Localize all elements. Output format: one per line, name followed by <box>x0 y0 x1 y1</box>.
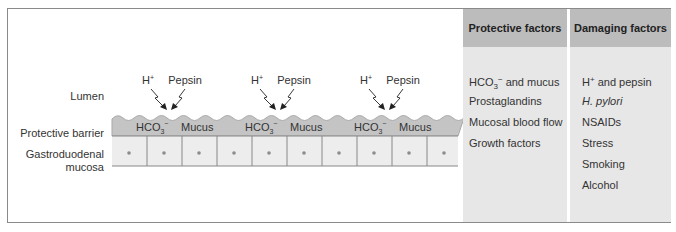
acid-label: H+ <box>142 74 154 86</box>
acid-attack-arrow <box>369 89 381 106</box>
pepsin-attack-arrow <box>175 89 185 106</box>
cell-nucleus <box>162 151 166 155</box>
damaging-factor-item: Alcohol <box>582 178 652 199</box>
acid-label: H+ <box>360 74 372 86</box>
pepsin-label: Pepsin <box>386 74 420 86</box>
cell-nucleus <box>127 151 131 155</box>
protective-factor-item: Mucosal blood flow <box>469 115 563 136</box>
cell-nucleus <box>197 151 201 155</box>
damaging-factor-item: Stress <box>582 136 652 157</box>
cell-nucleus <box>232 151 236 155</box>
damaging-factor-item: Smoking <box>582 157 652 178</box>
damaging-factor-item: NSAIDs <box>582 115 652 136</box>
cell-nucleus <box>407 151 411 155</box>
damaging-factors-list: H+ and pepsinH. pyloriNSAIDsStressSmokin… <box>582 73 652 199</box>
protective-factor-item: HCO3− and mucus <box>469 73 563 94</box>
bicarbonate-label: HCO3− <box>354 120 386 135</box>
damaging-factor-item: H. pylori <box>582 94 652 115</box>
cell-nucleus <box>372 151 376 155</box>
acid-label: H+ <box>251 74 263 86</box>
pepsin-attack-arrow <box>284 89 294 106</box>
protective-factors-column: Protective factors HCO3− and mucusProsta… <box>463 9 567 222</box>
protective-factors-header: Protective factors <box>463 9 567 47</box>
mucosal-diagram: Lumen Protective barrier Gastroduodenal … <box>8 9 464 222</box>
diagram-graphic: H+PepsinHCO3−MucusH+PepsinHCO3−MucusH+Pe… <box>8 9 464 222</box>
mucus-label: Mucus <box>399 121 432 133</box>
bicarbonate-label: HCO3− <box>136 120 168 135</box>
damaging-factors-body: H+ and pepsinH. pyloriNSAIDsStressSmokin… <box>570 49 671 222</box>
protective-factors-body: HCO3− and mucusProstaglandinsMucosal blo… <box>463 49 567 222</box>
protective-factors-list: HCO3− and mucusProstaglandinsMucosal blo… <box>469 73 563 157</box>
damaging-factor-item: H+ and pepsin <box>582 73 652 94</box>
cell-nucleus <box>442 151 446 155</box>
damaging-factors-header: Damaging factors <box>570 9 671 47</box>
pepsin-label: Pepsin <box>277 74 311 86</box>
cell-nucleus <box>267 151 271 155</box>
protective-factor-item: Growth factors <box>469 136 563 157</box>
mucus-label: Mucus <box>181 121 214 133</box>
pepsin-label: Pepsin <box>168 74 202 86</box>
cell-nucleus <box>302 151 306 155</box>
bicarbonate-label: HCO3− <box>245 120 277 135</box>
mucosa-layer <box>112 136 458 166</box>
acid-attack-arrow <box>260 89 272 106</box>
mucus-label: Mucus <box>290 121 323 133</box>
figure-frame: Lumen Protective barrier Gastroduodenal … <box>7 8 671 223</box>
acid-attack-arrow <box>151 89 163 106</box>
damaging-factors-column: Damaging factors H+ and pepsinH. pyloriN… <box>570 9 671 222</box>
protective-factor-item: Prostaglandins <box>469 94 563 115</box>
pepsin-attack-arrow <box>393 89 403 106</box>
cell-nucleus <box>337 151 341 155</box>
